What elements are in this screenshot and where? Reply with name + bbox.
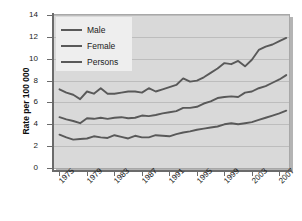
chart-legend: Male Female Persons: [56, 17, 132, 71]
legend-item-label: Female: [87, 42, 115, 51]
y-axis-tick: [47, 37, 52, 38]
series-line-persons: [60, 75, 287, 123]
y-axis-tick: [47, 146, 52, 147]
y-axis-line: [52, 13, 54, 171]
legend-line-icon: [61, 45, 82, 47]
y-axis-tick-label: 0: [0, 164, 38, 172]
y-axis-tick-label: 4: [0, 120, 38, 128]
legend-line-icon: [61, 29, 82, 31]
y-axis-tick-label: 14: [0, 11, 38, 19]
y-axis-tick-label: 10: [0, 55, 38, 63]
series-line-female: [60, 111, 287, 140]
y-axis-tick-label: 8: [0, 77, 38, 85]
y-axis-title: Rate per 100 000: [21, 46, 31, 156]
legend-item-female: Female: [61, 38, 127, 54]
legend-item-label: Persons: [87, 58, 118, 67]
y-axis-tick: [47, 59, 52, 60]
legend-item-persons: Persons: [61, 54, 127, 70]
y-axis-tick: [47, 168, 52, 169]
y-axis-tick: [47, 81, 52, 82]
y-axis-tick-label: 12: [0, 33, 38, 41]
y-axis-tick: [47, 102, 52, 103]
legend-item-label: Male: [87, 26, 105, 35]
y-axis-tick: [47, 124, 52, 125]
legend-line-icon: [61, 61, 82, 63]
line-chart: 02468101214 1975197919831987199119951999…: [0, 0, 302, 221]
y-axis-tick-label: 6: [0, 98, 38, 106]
y-axis-tick-label: 2: [0, 142, 38, 150]
y-axis-tick: [47, 15, 52, 16]
legend-item-male: Male: [61, 22, 127, 38]
